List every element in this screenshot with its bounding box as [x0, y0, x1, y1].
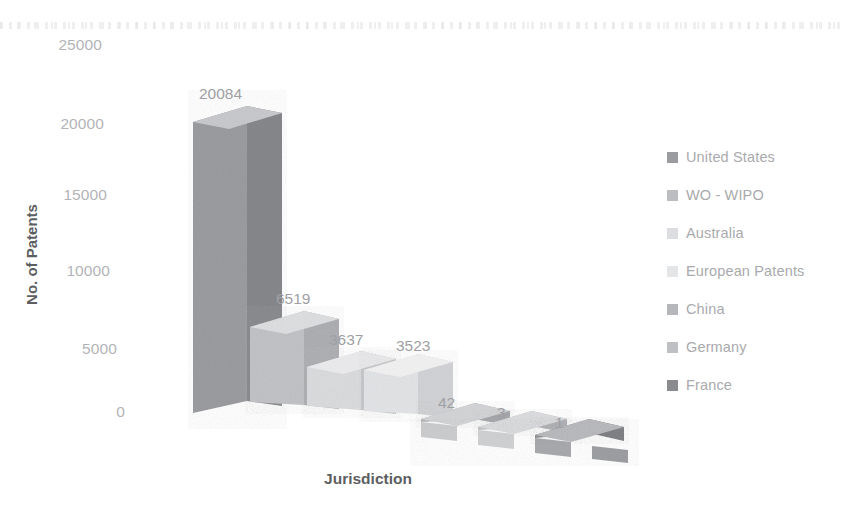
chart-container: 25000 20000 15000 10000 5000 0 No. of Pa… [0, 0, 843, 530]
legend-item-european-patents[interactable]: European Patents [667, 252, 843, 290]
legend-item-wo-wipo[interactable]: WO - WIPO [667, 176, 843, 214]
legend-label: United States [686, 149, 775, 165]
legend-label: France [686, 377, 732, 393]
legend-swatch-icon [667, 342, 678, 353]
data-label-australia: 3637 [329, 331, 363, 349]
legend-swatch-icon [667, 304, 678, 315]
legend-swatch-icon [667, 152, 678, 163]
bars-3d-group [0, 0, 660, 470]
data-label-united-states: 20084 [199, 85, 242, 103]
legend-label: WO - WIPO [686, 187, 764, 203]
data-label-wo-wipo: 6519 [276, 290, 310, 308]
data-label-china: 42 [438, 394, 455, 412]
legend-swatch-icon [667, 380, 678, 391]
legend-item-australia[interactable]: Australia [667, 214, 843, 252]
legend-swatch-icon [667, 190, 678, 201]
chart-legend: United States WO - WIPO Australia Europe… [667, 138, 843, 404]
legend-swatch-icon [667, 266, 678, 277]
legend-item-germany[interactable]: Germany [667, 328, 843, 366]
data-label-germany: 3 [497, 404, 506, 422]
x-axis-title: Jurisdiction [248, 470, 488, 488]
legend-label: China [686, 301, 725, 317]
data-label-france: 1 [555, 414, 564, 432]
data-label-european-patents: 3523 [396, 337, 430, 355]
legend-label: Germany [686, 339, 747, 355]
legend-label: European Patents [686, 263, 805, 279]
legend-label: Australia [686, 225, 744, 241]
legend-item-united-states[interactable]: United States [667, 138, 843, 176]
legend-item-france[interactable]: France [667, 366, 843, 404]
legend-item-china[interactable]: China [667, 290, 843, 328]
plot-area: 20084 6519 3637 3523 42 3 1 [0, 0, 660, 470]
legend-swatch-icon [667, 228, 678, 239]
